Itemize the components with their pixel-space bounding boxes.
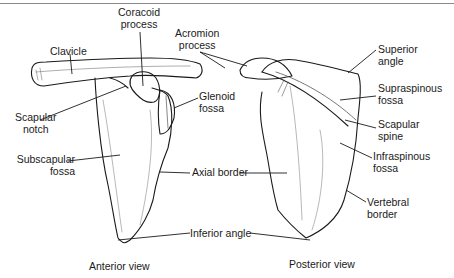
- label-text: fossa: [373, 162, 430, 174]
- label-glenoid-fossa: Glenoid fossa: [199, 90, 235, 114]
- label-text: Scapular: [378, 118, 419, 130]
- label-text: notch: [15, 123, 56, 135]
- label-text: Acromion: [175, 27, 219, 39]
- label-text: Glenoid: [199, 90, 235, 102]
- label-text: Coracoid: [118, 6, 160, 18]
- label-text: fossa: [199, 102, 235, 114]
- label-text: Scapular: [15, 111, 56, 123]
- label-text: angle: [378, 55, 418, 67]
- label-text: process: [118, 18, 160, 30]
- label-acromion-process: Acromion process: [175, 27, 219, 51]
- label-text: Infraspinous: [373, 150, 430, 162]
- label-vertebral-border: Vertebral border: [367, 196, 409, 220]
- label-text: border: [367, 208, 409, 220]
- clavicle-shape: [32, 58, 203, 86]
- label-axial-border: Axial border: [192, 166, 248, 178]
- label-subscapular-fossa: Subscapular fossa: [13, 153, 75, 177]
- label-infraspinous-fossa: Infraspinous fossa: [373, 150, 430, 174]
- label-text: Vertebral: [367, 196, 409, 208]
- label-text: process: [175, 39, 219, 51]
- label-inferior-angle: Inferior angle: [190, 227, 251, 239]
- anterior-scapula-outline: [95, 78, 172, 243]
- label-text: fossa: [13, 165, 75, 177]
- label-scapular-spine: Scapular spine: [378, 118, 419, 142]
- coracoid-shape: [130, 72, 160, 103]
- caption-anterior-view: Anterior view: [89, 260, 150, 272]
- label-text: fossa: [378, 94, 442, 106]
- label-text: Supraspinous: [378, 82, 442, 94]
- caption-posterior-view: Posterior view: [289, 258, 355, 270]
- label-text: spine: [378, 130, 419, 142]
- posterior-scapula-outline: [260, 60, 360, 239]
- label-coracoid-process: Coracoid process: [118, 6, 160, 30]
- scapular-spine-shape: [262, 72, 348, 126]
- label-clavicle: Clavicle: [50, 45, 87, 57]
- label-supraspinous-fossa: Supraspinous fossa: [378, 82, 442, 106]
- acromion-shape: [240, 58, 292, 79]
- label-scapular-notch: Scapular notch: [15, 111, 56, 135]
- label-superior-angle: Superior angle: [378, 43, 418, 67]
- label-text: Subscapular: [13, 153, 75, 165]
- label-text: Superior: [378, 43, 418, 55]
